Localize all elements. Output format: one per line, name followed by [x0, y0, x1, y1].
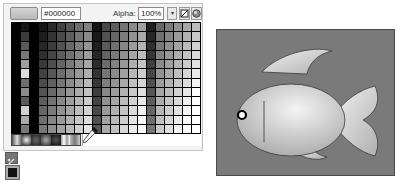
- color-swatch[interactable]: [138, 116, 146, 124]
- color-picker-button[interactable]: [191, 7, 202, 20]
- color-swatch[interactable]: [138, 106, 146, 114]
- color-swatch[interactable]: [102, 97, 110, 105]
- color-swatch[interactable]: [183, 116, 191, 124]
- color-swatch[interactable]: [39, 125, 47, 133]
- color-swatch[interactable]: [57, 69, 65, 77]
- color-swatch[interactable]: [93, 116, 101, 124]
- color-swatch[interactable]: [84, 69, 92, 77]
- color-swatch[interactable]: [93, 97, 101, 105]
- color-swatch[interactable]: [102, 42, 110, 50]
- color-swatch[interactable]: [156, 23, 164, 31]
- color-swatch[interactable]: [12, 42, 20, 50]
- color-swatch[interactable]: [48, 79, 56, 87]
- color-swatch[interactable]: [111, 51, 119, 59]
- color-swatch[interactable]: [138, 97, 146, 105]
- color-swatch[interactable]: [75, 69, 83, 77]
- color-swatch[interactable]: [66, 32, 74, 40]
- color-swatch[interactable]: [21, 125, 29, 133]
- color-swatch[interactable]: [48, 97, 56, 105]
- color-swatch[interactable]: [165, 106, 173, 114]
- alpha-dropdown-button[interactable]: ▾: [167, 7, 177, 20]
- color-swatch[interactable]: [192, 23, 200, 31]
- color-swatch[interactable]: [156, 60, 164, 68]
- color-swatch[interactable]: [174, 69, 182, 77]
- color-swatch[interactable]: [192, 42, 200, 50]
- color-swatch[interactable]: [12, 88, 20, 96]
- color-swatch[interactable]: [12, 23, 20, 31]
- color-swatch[interactable]: [147, 60, 155, 68]
- color-swatch[interactable]: [174, 106, 182, 114]
- color-swatch[interactable]: [57, 60, 65, 68]
- color-swatch[interactable]: [84, 79, 92, 87]
- color-swatch[interactable]: [192, 60, 200, 68]
- gradient-swatch[interactable]: [51, 135, 61, 145]
- color-swatch[interactable]: [102, 69, 110, 77]
- color-swatch[interactable]: [192, 69, 200, 77]
- color-swatch[interactable]: [129, 32, 137, 40]
- color-swatch[interactable]: [12, 79, 20, 87]
- gradient-swatch[interactable]: [22, 135, 32, 145]
- color-swatch[interactable]: [120, 88, 128, 96]
- color-swatch[interactable]: [39, 42, 47, 50]
- color-swatch[interactable]: [156, 97, 164, 105]
- color-swatch[interactable]: [30, 42, 38, 50]
- gradient-swatch[interactable]: [12, 135, 22, 145]
- hex-color-input[interactable]: #000000: [41, 7, 81, 20]
- color-swatch[interactable]: [84, 51, 92, 59]
- color-swatch[interactable]: [138, 42, 146, 50]
- color-swatch[interactable]: [66, 97, 74, 105]
- color-swatch[interactable]: [129, 60, 137, 68]
- color-swatch[interactable]: [183, 51, 191, 59]
- color-swatch[interactable]: [21, 51, 29, 59]
- color-swatch[interactable]: [102, 79, 110, 87]
- color-swatch[interactable]: [102, 51, 110, 59]
- gradient-swatch[interactable]: [61, 135, 71, 145]
- color-swatch[interactable]: [111, 88, 119, 96]
- color-swatch[interactable]: [120, 32, 128, 40]
- color-swatch[interactable]: [129, 88, 137, 96]
- color-swatch[interactable]: [57, 51, 65, 59]
- color-swatch[interactable]: [111, 106, 119, 114]
- color-swatch[interactable]: [75, 42, 83, 50]
- color-swatch[interactable]: [84, 23, 92, 31]
- color-swatch[interactable]: [192, 106, 200, 114]
- color-swatch[interactable]: [30, 69, 38, 77]
- color-swatch[interactable]: [21, 69, 29, 77]
- color-swatch[interactable]: [183, 69, 191, 77]
- color-swatch[interactable]: [57, 97, 65, 105]
- color-swatch[interactable]: [48, 69, 56, 77]
- color-swatch[interactable]: [156, 69, 164, 77]
- color-swatch[interactable]: [129, 79, 137, 87]
- color-swatch[interactable]: [174, 23, 182, 31]
- color-swatch[interactable]: [111, 97, 119, 105]
- color-swatch[interactable]: [48, 51, 56, 59]
- color-swatch[interactable]: [93, 60, 101, 68]
- color-swatch[interactable]: [30, 32, 38, 40]
- color-swatch[interactable]: [21, 116, 29, 124]
- color-swatch[interactable]: [111, 23, 119, 31]
- color-swatch[interactable]: [12, 116, 20, 124]
- color-swatch[interactable]: [75, 32, 83, 40]
- color-swatch[interactable]: [21, 42, 29, 50]
- color-swatch[interactable]: [75, 88, 83, 96]
- gradient-swatch[interactable]: [31, 135, 41, 145]
- color-swatch[interactable]: [84, 106, 92, 114]
- color-swatch[interactable]: [147, 42, 155, 50]
- color-swatch[interactable]: [75, 79, 83, 87]
- color-swatch[interactable]: [84, 88, 92, 96]
- color-swatch[interactable]: [93, 23, 101, 31]
- color-swatch[interactable]: [57, 106, 65, 114]
- color-swatch[interactable]: [75, 51, 83, 59]
- color-swatch[interactable]: [84, 60, 92, 68]
- color-swatch[interactable]: [93, 69, 101, 77]
- color-swatch[interactable]: [93, 51, 101, 59]
- color-swatch[interactable]: [75, 106, 83, 114]
- color-swatch[interactable]: [165, 51, 173, 59]
- color-swatch[interactable]: [102, 116, 110, 124]
- color-swatch[interactable]: [138, 32, 146, 40]
- color-swatch[interactable]: [147, 79, 155, 87]
- color-swatch[interactable]: [84, 32, 92, 40]
- color-swatch[interactable]: [129, 97, 137, 105]
- color-swatch[interactable]: [183, 42, 191, 50]
- color-swatch[interactable]: [111, 69, 119, 77]
